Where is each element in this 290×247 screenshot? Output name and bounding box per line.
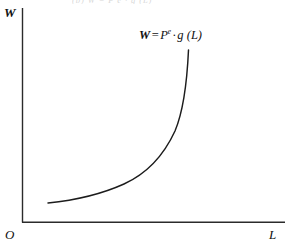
x-axis-label: L [269, 228, 276, 241]
equation-function-argument: (L) [187, 28, 202, 42]
equation-equals: = [150, 28, 160, 42]
equation-lhs: W [139, 28, 150, 42]
curve-equation-label: W=Pe·g (L) [139, 29, 202, 42]
equation-price-symbol: P [160, 28, 168, 42]
equation-function-symbol: g [177, 28, 183, 42]
wage-curve [48, 50, 189, 203]
figure-container: (b) W = P e · g (L) W O L W=Pe·g (L) [0, 0, 290, 247]
y-axis-label: W [4, 6, 16, 19]
origin-label: O [5, 228, 14, 241]
